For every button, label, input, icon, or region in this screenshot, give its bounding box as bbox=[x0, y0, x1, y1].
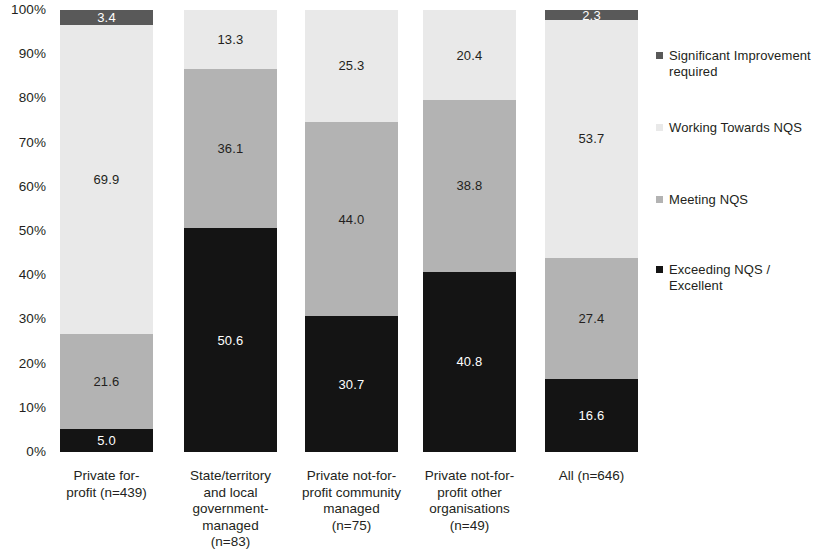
x-axis-category-label-line: Private not-for- bbox=[291, 468, 412, 485]
legend-item-label-line: Excellent bbox=[669, 278, 770, 294]
bar-segment-value-label: 5.0 bbox=[97, 434, 116, 447]
y-axis: 0%10%20%30%40%50%60%70%80%90%100% bbox=[0, 0, 52, 462]
legend-item-label-line: Meeting NQS bbox=[669, 192, 748, 208]
bar-segment[interactable]: 5.0 bbox=[60, 429, 153, 451]
bar-segment[interactable]: 30.7 bbox=[305, 316, 398, 452]
legend-item-label: Meeting NQS bbox=[669, 192, 748, 208]
bar-segment[interactable]: 69.9 bbox=[60, 25, 153, 334]
legend-swatch-meeting bbox=[656, 196, 663, 203]
x-axis-category-label: Private not-for-profit communitymanaged(… bbox=[291, 468, 412, 534]
bar-segment[interactable]: 27.4 bbox=[545, 258, 638, 379]
bar-column[interactable]: 2.353.727.416.6 bbox=[545, 10, 638, 452]
bar-segment[interactable]: 20.4 bbox=[423, 10, 516, 100]
bar-segment-value-label: 20.4 bbox=[456, 49, 482, 62]
x-axis-category-label-line: organisations bbox=[409, 501, 530, 518]
bar-segment-value-label: 44.0 bbox=[338, 213, 364, 226]
bar-segment[interactable]: 3.4 bbox=[60, 10, 153, 25]
y-axis-tick-label: 90% bbox=[19, 47, 46, 61]
bar-segment-value-label: 36.1 bbox=[217, 142, 243, 155]
bar-segment-value-label: 30.7 bbox=[338, 378, 364, 391]
bar-segment[interactable]: 2.3 bbox=[545, 10, 638, 20]
x-axis-category-label-line: managed bbox=[170, 518, 291, 535]
bar-segment-value-label: 21.6 bbox=[93, 375, 119, 388]
x-axis-category-label-line: managed bbox=[291, 501, 412, 518]
x-axis-category-label-line: profit other bbox=[409, 485, 530, 502]
bar-segment[interactable]: 38.8 bbox=[423, 100, 516, 271]
bar-segment-value-label: 38.8 bbox=[456, 179, 482, 192]
x-axis-category-label-line: All (n=646) bbox=[531, 468, 652, 485]
legend-item[interactable]: Meeting NQS bbox=[656, 192, 748, 208]
x-axis-category-label-line: profit community bbox=[291, 485, 412, 502]
bar-segment[interactable]: 44.0 bbox=[305, 122, 398, 316]
chart-legend: Significant ImprovementrequiredWorking T… bbox=[656, 0, 816, 300]
x-axis-category-label-line: State/territory bbox=[170, 468, 291, 485]
y-axis-tick-label: 40% bbox=[19, 268, 46, 282]
bar-segment-value-label: 27.4 bbox=[578, 312, 604, 325]
bar-segment[interactable]: 16.6 bbox=[545, 379, 638, 452]
x-axis-category-label-line: and local bbox=[170, 485, 291, 502]
bar-segment-value-label: 3.4 bbox=[97, 11, 116, 24]
bar-segment-value-label: 25.3 bbox=[338, 59, 364, 72]
bar-segment-value-label: 50.6 bbox=[217, 334, 243, 347]
y-axis-tick-label: 70% bbox=[19, 136, 46, 150]
legend-swatch-working-towards bbox=[656, 124, 663, 131]
legend-item-label: Exceeding NQS /Excellent bbox=[669, 262, 770, 294]
bar-stack: 13.336.150.6 bbox=[184, 10, 277, 452]
legend-item[interactable]: Exceeding NQS /Excellent bbox=[656, 262, 770, 294]
bar-segment[interactable]: 25.3 bbox=[305, 10, 398, 122]
bar-stack: 20.438.840.8 bbox=[423, 10, 516, 452]
x-axis-category-label: Private for-profit (n=439) bbox=[46, 468, 167, 501]
x-axis-category-label-line: (n=49) bbox=[409, 518, 530, 535]
y-axis-tick-label: 50% bbox=[19, 224, 46, 238]
x-axis-category-label-line: profit (n=439) bbox=[46, 485, 167, 502]
plot-area: 3.469.921.65.0Private for-profit (n=439)… bbox=[56, 10, 616, 452]
legend-item-label: Significant Improvementrequired bbox=[669, 48, 811, 80]
bar-segment-value-label: 40.8 bbox=[456, 355, 482, 368]
bar-stack: 2.353.727.416.6 bbox=[545, 10, 638, 452]
bar-segment-value-label: 53.7 bbox=[578, 132, 604, 145]
x-axis-category-label-line: Private not-for- bbox=[409, 468, 530, 485]
legend-swatch-exceeding bbox=[656, 266, 663, 273]
bar-segment[interactable]: 13.3 bbox=[184, 10, 277, 69]
y-axis-tick-label: 0% bbox=[26, 445, 46, 459]
bar-column[interactable]: 25.344.030.7 bbox=[305, 10, 398, 452]
bar-column[interactable]: 20.438.840.8 bbox=[423, 10, 516, 452]
legend-item-label-line: required bbox=[669, 64, 811, 80]
x-axis-category-label: State/territoryand localgovernment-manag… bbox=[170, 468, 291, 551]
bar-segment[interactable]: 21.6 bbox=[60, 334, 153, 429]
y-axis-tick-label: 10% bbox=[19, 401, 46, 415]
bar-stack: 25.344.030.7 bbox=[305, 10, 398, 452]
bar-segment[interactable]: 36.1 bbox=[184, 69, 277, 229]
x-axis-category-label-line: (n=75) bbox=[291, 518, 412, 535]
bar-segment[interactable]: 40.8 bbox=[423, 272, 516, 452]
x-axis-category-label-line: Private for- bbox=[46, 468, 167, 485]
bar-column[interactable]: 3.469.921.65.0 bbox=[60, 10, 153, 452]
y-axis-tick-label: 30% bbox=[19, 312, 46, 326]
legend-item-label-line: Significant Improvement bbox=[669, 48, 811, 64]
bar-segment-value-label: 16.6 bbox=[578, 409, 604, 422]
bar-segment-value-label: 69.9 bbox=[93, 173, 119, 186]
legend-item[interactable]: Significant Improvementrequired bbox=[656, 48, 811, 80]
y-axis-tick-label: 80% bbox=[19, 91, 46, 105]
bar-stack: 3.469.921.65.0 bbox=[60, 10, 153, 452]
x-axis-category-label-line: government- bbox=[170, 501, 291, 518]
bar-column[interactable]: 13.336.150.6 bbox=[184, 10, 277, 452]
legend-item[interactable]: Working Towards NQS bbox=[656, 120, 802, 136]
legend-item-label: Working Towards NQS bbox=[669, 120, 802, 136]
bar-segment-value-label: 13.3 bbox=[217, 33, 243, 46]
x-axis-category-label: All (n=646) bbox=[531, 468, 652, 485]
legend-item-label-line: Working Towards NQS bbox=[669, 120, 802, 136]
legend-swatch-significant-improvement bbox=[656, 52, 663, 59]
x-axis-category-label-line: (n=83) bbox=[170, 534, 291, 551]
x-axis-category-label: Private not-for-profit otherorganisation… bbox=[409, 468, 530, 534]
y-axis-tick-label: 20% bbox=[19, 357, 46, 371]
y-axis-tick-label: 100% bbox=[11, 3, 46, 17]
bar-segment[interactable]: 53.7 bbox=[545, 20, 638, 257]
y-axis-tick-label: 60% bbox=[19, 180, 46, 194]
bar-segment[interactable]: 50.6 bbox=[184, 228, 277, 452]
legend-item-label-line: Exceeding NQS / bbox=[669, 262, 770, 278]
